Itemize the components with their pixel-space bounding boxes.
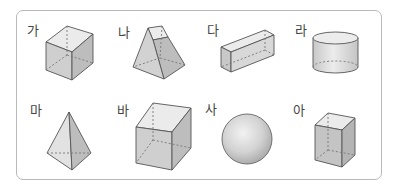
shapes-canvas <box>0 0 394 192</box>
cylinder-icon <box>313 32 358 73</box>
sphere-icon <box>222 114 272 164</box>
large-cube-icon <box>136 103 191 170</box>
standing-prism-icon <box>315 113 355 167</box>
frustum-icon <box>133 26 185 79</box>
rectangular-prism-icon <box>221 30 274 72</box>
pyramid-icon <box>47 112 91 170</box>
cube-icon <box>46 26 93 80</box>
